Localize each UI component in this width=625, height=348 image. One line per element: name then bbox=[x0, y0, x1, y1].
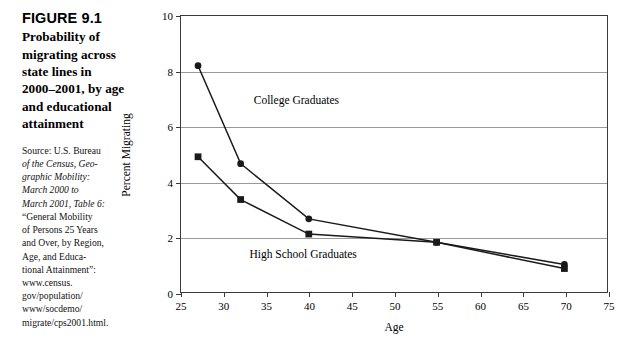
x-tick-mark bbox=[181, 292, 182, 297]
x-tick-mark bbox=[609, 292, 610, 297]
x-tick-mark bbox=[267, 292, 268, 297]
series-line-0 bbox=[198, 66, 564, 265]
x-tick-mark bbox=[523, 292, 524, 297]
data-point-marker bbox=[561, 265, 568, 272]
x-tick-mark bbox=[224, 292, 225, 297]
x-tick-label: 30 bbox=[218, 300, 229, 312]
plot-area: 0246810 2530354045505560657075 College G… bbox=[180, 15, 608, 293]
y-tick-label: 2 bbox=[168, 232, 174, 244]
x-tick-mark bbox=[395, 292, 396, 297]
x-axis-title: Age bbox=[384, 321, 403, 333]
x-tick-label: 35 bbox=[261, 300, 272, 312]
y-tick-label: 0 bbox=[168, 288, 174, 300]
x-tick-label: 40 bbox=[304, 300, 315, 312]
data-point-marker bbox=[305, 215, 312, 222]
x-tick-mark bbox=[481, 292, 482, 297]
data-point-marker bbox=[305, 231, 312, 238]
x-tick-mark bbox=[352, 292, 353, 297]
y-tick-label: 8 bbox=[168, 66, 174, 78]
data-point-marker bbox=[237, 160, 244, 167]
x-tick-mark bbox=[309, 292, 310, 297]
data-point-marker bbox=[195, 62, 202, 69]
figure-page: FIGURE 9.1 Probability of migrating acro… bbox=[0, 0, 625, 348]
data-point-marker bbox=[195, 153, 202, 160]
x-tick-label: 50 bbox=[390, 300, 401, 312]
chart-container: Percent Migrating Age 0246810 2530354045… bbox=[0, 0, 625, 348]
data-point-marker bbox=[433, 239, 440, 246]
x-tick-label: 65 bbox=[518, 300, 529, 312]
y-tick-label: 6 bbox=[168, 121, 174, 133]
y-axis-title: Percent Migrating bbox=[120, 113, 132, 196]
y-tick-label: 10 bbox=[162, 10, 173, 22]
series-lines-and-markers bbox=[181, 16, 607, 292]
x-tick-label: 70 bbox=[561, 300, 572, 312]
x-tick-label: 45 bbox=[347, 300, 358, 312]
x-tick-mark bbox=[438, 292, 439, 297]
x-tick-mark bbox=[566, 292, 567, 297]
x-tick-label: 25 bbox=[176, 300, 187, 312]
x-tick-label: 55 bbox=[432, 300, 443, 312]
x-tick-label: 60 bbox=[475, 300, 486, 312]
x-tick-label: 75 bbox=[604, 300, 615, 312]
y-tick-label: 4 bbox=[168, 177, 174, 189]
data-point-marker bbox=[237, 196, 244, 203]
